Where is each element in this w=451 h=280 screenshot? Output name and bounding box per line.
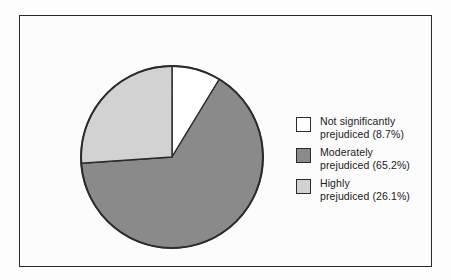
- legend-label-0: Not significantly prejudiced (8.7%): [320, 115, 404, 140]
- legend-item-not-significantly-prejudiced[interactable]: Not significantly prejudiced (8.7%): [296, 115, 444, 140]
- pie-slice-2[interactable]: [81, 66, 172, 163]
- legend-label-1: Moderately prejudiced (65.2%): [320, 146, 410, 171]
- legend-swatch-icon-2: [296, 179, 311, 194]
- legend-swatch-icon-1: [296, 148, 311, 163]
- legend-swatch-icon-0: [296, 117, 311, 132]
- pie-svg: [77, 62, 267, 252]
- pie-chart: [77, 62, 267, 252]
- chart-frame: Not significantly prejudiced (8.7%) Mode…: [19, 15, 432, 267]
- figure-container: Not significantly prejudiced (8.7%) Mode…: [0, 0, 451, 280]
- chart-legend: Not significantly prejudiced (8.7%) Mode…: [296, 115, 444, 208]
- legend-item-moderately-prejudiced[interactable]: Moderately prejudiced (65.2%): [296, 146, 444, 171]
- legend-label-2: Highly prejudiced (26.1%): [320, 177, 410, 202]
- legend-item-highly-prejudiced[interactable]: Highly prejudiced (26.1%): [296, 177, 444, 202]
